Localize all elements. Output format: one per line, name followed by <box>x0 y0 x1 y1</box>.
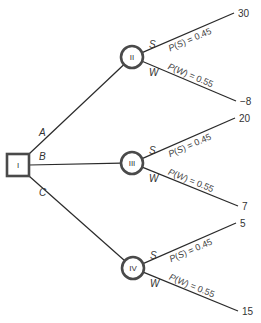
outcome-branch-s <box>142 118 235 159</box>
payoff-value: 7 <box>242 201 248 212</box>
decision-tree-diagram: ABCSP(S) = 0.4530WP(W) = 0.55−8SP(S) = 0… <box>0 0 261 323</box>
tree-nodes: IIIIIIVI <box>7 46 144 279</box>
payoff-value: −8 <box>240 96 252 107</box>
chance-node-label: III <box>129 159 136 168</box>
outcome-label-w: W <box>150 278 161 289</box>
outcome-label-s: S <box>149 39 156 50</box>
payoff-value: 5 <box>240 218 246 229</box>
outcome-label-s: S <box>150 250 157 261</box>
decision-branch-b <box>29 163 121 165</box>
outcome-label-w: W <box>149 67 160 78</box>
decision-branch-a <box>29 65 124 154</box>
payoff-value: 20 <box>239 113 251 124</box>
outcome-label-w: W <box>149 173 160 184</box>
payoff-value: 15 <box>242 306 254 317</box>
decision-branch-label: A <box>38 127 46 138</box>
decision-branch-label: C <box>39 187 47 198</box>
tree-labels: ABCSP(S) = 0.4530WP(W) = 0.55−8SP(S) = 0… <box>38 8 254 317</box>
decision-node-label: I <box>17 161 19 170</box>
outcome-branch-s <box>143 223 236 264</box>
probability-label: P(S) = 0.45 <box>167 26 213 53</box>
outcome-branch-s <box>142 13 234 53</box>
chance-node-label: IV <box>129 264 137 273</box>
decision-branch-label: B <box>39 151 46 162</box>
payoff-value: 30 <box>238 8 250 19</box>
chance-node-label: II <box>130 53 134 62</box>
outcome-label-s: S <box>149 145 156 156</box>
